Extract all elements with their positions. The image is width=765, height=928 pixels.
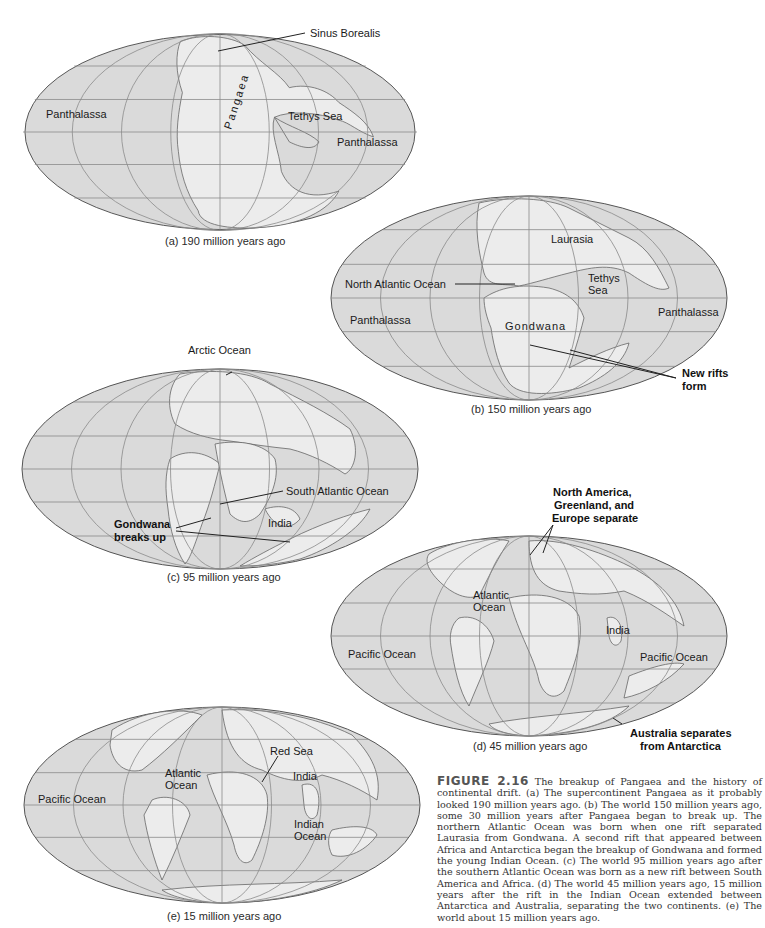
label-atlantic-e-2: Ocean xyxy=(165,779,197,791)
caption-map-c: (c) 95 million years ago xyxy=(167,571,281,583)
label-na-separate-1: North America, xyxy=(553,486,631,498)
label-australia-2: from Antarctica xyxy=(640,740,722,752)
label-laurasia: Laurasia xyxy=(551,233,594,245)
label-panthalassa-a-right: Panthalassa xyxy=(337,136,398,148)
label-gondwana-breaks-2: breaks up xyxy=(114,531,166,543)
caption-map-b: (b) 150 million years ago xyxy=(471,403,591,415)
label-pacific-d-right: Pacific Ocean xyxy=(640,651,708,663)
label-tethys-b-2: Sea xyxy=(588,284,608,296)
label-new-rifts-1: New rifts xyxy=(682,367,728,379)
label-na-separate-2: Greenland, and xyxy=(554,499,634,511)
figure-caption-text: The breakup of Pangaea and the history o… xyxy=(437,776,762,923)
label-atlantic-e-1: Atlantic xyxy=(165,767,202,779)
label-india-c: India xyxy=(268,517,293,529)
label-na-separate-3: Europe separate xyxy=(552,512,638,524)
label-australia-1: Australia separates xyxy=(630,727,732,739)
figure-caption: FIGURE 2.16 The breakup of Pangaea and t… xyxy=(437,776,762,923)
caption-map-a: (a) 190 million years ago xyxy=(165,235,285,247)
label-gondwana-b: Gondwana xyxy=(505,320,566,332)
label-pacific-e: Pacific Ocean xyxy=(38,793,106,805)
label-tethys-sea-a: Tethys Sea xyxy=(288,110,343,122)
label-panthalassa-a-left: Panthalassa xyxy=(46,108,107,120)
label-new-rifts-2: form xyxy=(682,380,707,392)
caption-map-e: (e) 15 million years ago xyxy=(167,910,281,922)
label-panthalassa-b-left: Panthalassa xyxy=(350,314,411,326)
label-indian-ocean-1: Indian xyxy=(294,818,324,830)
label-red-sea: Red Sea xyxy=(270,745,314,757)
figure-number: FIGURE 2.16 xyxy=(437,774,529,788)
label-pacific-d-left: Pacific Ocean xyxy=(348,648,416,660)
label-south-atlantic-ocean: South Atlantic Ocean xyxy=(286,485,389,497)
label-arctic-ocean: Arctic Ocean xyxy=(188,344,251,356)
label-sinus-borealis: Sinus Borealis xyxy=(310,27,381,39)
label-gondwana-breaks-1: Gondwana xyxy=(114,518,171,530)
label-north-atlantic-ocean: North Atlantic Ocean xyxy=(345,278,446,290)
label-indian-ocean-2: Ocean xyxy=(294,830,326,842)
label-atlantic-d-1: Atlantic xyxy=(473,589,510,601)
label-atlantic-d-2: Ocean xyxy=(473,601,505,613)
label-tethys-b-1: Tethys xyxy=(588,272,620,284)
label-india-e: India xyxy=(293,770,318,782)
label-india-d: India xyxy=(606,624,631,636)
caption-map-d: (d) 45 million years ago xyxy=(473,740,587,752)
label-panthalassa-b-right: Panthalassa xyxy=(658,306,719,318)
